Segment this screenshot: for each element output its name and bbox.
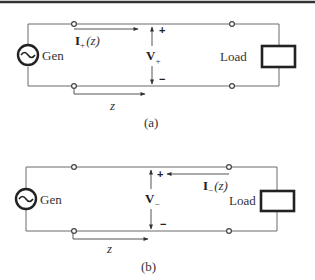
generator-icon [18,45,38,65]
generator-label: Gen [40,192,62,207]
generator-icon [16,189,36,209]
caption-a: (a) [144,115,158,130]
polarity-plus: + [159,24,165,36]
wire-bottom-left [28,67,74,86]
load-label: Load [220,49,247,64]
polarity-minus: − [159,73,165,85]
transmission-line-figure: Gen Load I+(z) + − V+ z (a) [0,0,315,280]
diagram-b: Gen Load I−(z) + − V− z (b) [16,165,294,274]
position-label: z [106,241,112,256]
terminal-icon [227,229,232,234]
diagram-a: Gen Load I+(z) + − V+ z (a) [18,22,295,130]
wire-top-left [26,167,74,188]
position-arrow-icon [73,233,148,239]
terminal-icon [227,165,232,170]
terminal-icon [72,229,77,234]
position-label: z [109,98,115,113]
load-icon [261,191,294,211]
terminal-icon [230,84,235,89]
terminal-icon [230,22,235,27]
position-arrow-icon [74,88,145,94]
polarity-minus: − [160,218,166,230]
voltage-label: V+ [146,48,160,66]
polarity-plus: + [157,168,163,180]
wire-bottom-right [229,211,277,231]
terminal-icon [72,22,77,27]
wire-top-left [28,24,74,44]
generator-label: Gen [42,48,64,63]
wire-top-right [229,167,277,191]
terminal-icon [72,165,77,170]
wire-top-right [232,24,279,46]
load-icon [262,46,295,67]
caption-b: (b) [141,259,156,274]
current-label: I−(z) [203,178,228,195]
voltage-label: V− [145,191,159,209]
wire-bottom-right [232,67,279,86]
current-label: I+(z) [75,33,100,50]
terminal-icon [72,84,77,89]
wire-bottom-left [26,210,74,231]
load-label: Load [229,193,256,208]
